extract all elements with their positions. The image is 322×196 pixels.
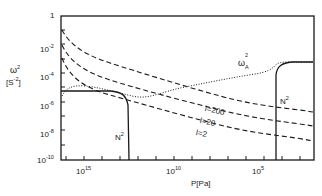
- annotation-omega-a-sup: 2: [245, 53, 248, 59]
- annotation-omega-a-symbol: ω: [238, 58, 245, 68]
- y-axis-label: ω2: [10, 65, 20, 75]
- y-tick-base: 10: [40, 130, 49, 139]
- x-tick-base: 10: [76, 167, 85, 176]
- y-tick-label-1e-10: 10-10: [37, 155, 54, 165]
- x-tick-label-1e10: 1010: [166, 166, 181, 176]
- y-axis-label-sup: 2: [17, 64, 20, 70]
- y-tick-base: 10: [40, 102, 49, 111]
- annotation-n2-right: N2: [280, 96, 289, 106]
- y-tick-base: 10: [37, 156, 46, 165]
- y-axis-units: [S-2]: [6, 77, 21, 87]
- y-tick-label-1e-6: 10-6: [40, 101, 54, 111]
- y-tick-base: 10: [40, 45, 49, 54]
- x-tick-base: 10: [166, 167, 175, 176]
- y-tick-label-1e-8: 10-8: [40, 129, 54, 139]
- y-axis-units-text: [S: [6, 78, 14, 87]
- y-tick-label-1: 1: [50, 12, 54, 20]
- x-tick-base: 10: [252, 167, 261, 176]
- y-tick-exp: -6: [49, 100, 54, 106]
- y-tick-exp: -4: [49, 71, 54, 77]
- y-tick-label-1e-4: 10-4: [40, 72, 54, 82]
- x-axis-label: P[Pa]: [191, 180, 211, 188]
- annotation-n2-right-sup: 2: [286, 95, 289, 101]
- curve-n2-left: [61, 91, 129, 160]
- y-tick-exp: -10: [46, 154, 54, 160]
- plot-canvas: [0, 0, 322, 196]
- x-tick-exp: 15: [85, 165, 91, 171]
- y-tick-label-1e-2: 10-2: [40, 44, 54, 54]
- y-axis-label-symbol: ω: [10, 65, 17, 75]
- x-tick-label-1e5: 105: [252, 166, 264, 176]
- annotation-omega-a: ω2A: [238, 59, 249, 68]
- x-tick-label-1e15: 1015: [76, 166, 91, 176]
- x-tick-exp: 5: [261, 165, 264, 171]
- y-tick-exp: -8: [49, 128, 54, 134]
- annotation-n2-left: N2: [115, 132, 124, 142]
- y-tick-exp: -2: [49, 43, 54, 49]
- curve-n2-right: [276, 62, 313, 160]
- annotation-n2-left-sup: 2: [121, 131, 124, 137]
- y-tick-base: 10: [40, 73, 49, 82]
- annotation-omega-a-sub: A: [245, 64, 249, 70]
- x-tick-exp: 10: [175, 165, 181, 171]
- y-axis-units-end: ]: [18, 78, 20, 87]
